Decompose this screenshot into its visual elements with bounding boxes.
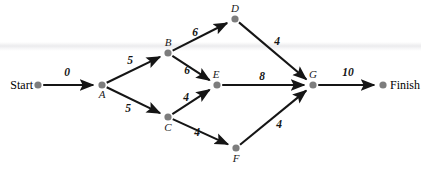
nodes-layer [34,15,386,151]
edge-B-D [173,23,228,51]
edge-B-E [172,56,209,80]
edge-weight-start-A: 0 [64,66,70,78]
network-diagram-canvas: 055664448410 ABCDEFG Start Finish [0,0,421,179]
node-label-E: E [212,68,220,80]
edge-A-C [107,87,160,113]
node-E [213,81,220,88]
edge-weight-C-E: 4 [182,91,189,103]
network-diagram-svg: 055664448410 ABCDEFG [0,0,421,179]
node-label-F: F [232,152,240,164]
node-B [164,49,171,56]
edge-weight-C-F: 4 [193,126,200,138]
edge-A-B [107,57,160,83]
edge-weight-E-G: 8 [259,70,265,82]
node-label-C: C [164,121,172,133]
node-label-B: B [165,36,172,48]
edge-weight-A-C: 5 [125,102,131,114]
node-finish [379,81,386,88]
node-labels-layer: ABCDEFG [98,2,317,164]
node-label-D: D [230,2,239,14]
node-C [164,113,171,120]
edge-weight-B-E: 6 [184,64,190,76]
edge-weight-B-D: 6 [192,26,198,38]
node-G [309,81,316,88]
node-D [231,15,238,22]
edges-layer [43,22,374,144]
edge-C-E [172,90,209,114]
edge-weight-G-finish: 10 [342,66,354,78]
node-F [232,144,239,151]
edge-weight-D-G: 4 [273,35,280,47]
edge-C-F [173,119,228,144]
node-label-A: A [98,88,106,100]
edge-D-G [239,22,306,79]
edge-weight-F-G: 4 [275,118,282,130]
node-label-G: G [309,68,317,80]
edge-F-G [240,91,306,145]
edge-weight-A-B: 5 [127,54,133,66]
node-start [34,81,41,88]
